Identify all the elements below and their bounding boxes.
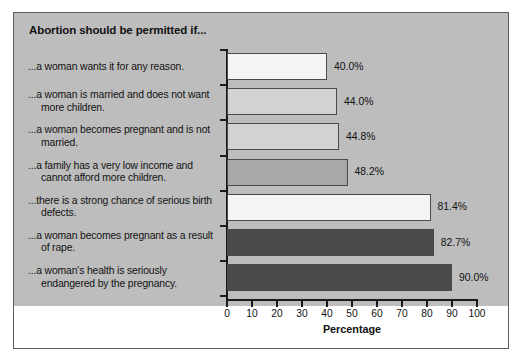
bar-value-label: 44.8% bbox=[346, 131, 375, 142]
bar bbox=[227, 53, 327, 80]
x-axis-tick-label: 100 bbox=[462, 308, 492, 319]
category-label: ...a woman's health is seriously endange… bbox=[28, 265, 214, 290]
chart-title: Abortion should be permitted if... bbox=[29, 24, 206, 36]
y-axis-tick bbox=[220, 49, 228, 51]
x-axis-tick bbox=[326, 301, 328, 307]
category-label: ...a woman becomes pregnant as a result … bbox=[28, 230, 214, 255]
bar-value-label: 82.7% bbox=[441, 237, 470, 248]
x-axis-tick bbox=[301, 301, 303, 307]
category-label: ...a woman is married and does not want … bbox=[28, 89, 214, 114]
x-axis-tick bbox=[476, 301, 478, 307]
y-axis-tick bbox=[220, 119, 228, 121]
bar-value-label: 40.0% bbox=[334, 61, 363, 72]
bar bbox=[227, 229, 434, 256]
y-axis-tick bbox=[220, 155, 228, 157]
chart-figure: Abortion should be permitted if... ...a … bbox=[13, 12, 509, 349]
bar-value-label: 90.0% bbox=[459, 272, 488, 283]
x-axis-tick bbox=[451, 301, 453, 307]
category-label: ...a woman becomes pregnant and is not m… bbox=[28, 124, 214, 149]
category-label-list: ...a woman wants it for any reason....a … bbox=[28, 49, 214, 301]
bar-value-label: 48.2% bbox=[355, 166, 384, 177]
x-axis-tick bbox=[276, 301, 278, 307]
x-axis-tick bbox=[226, 301, 228, 307]
plot-area: Percentage 40.0%44.0%44.8%48.2%81.4%82.7… bbox=[213, 49, 491, 306]
y-axis-tick bbox=[220, 225, 228, 227]
y-axis-tick bbox=[220, 260, 228, 262]
y-axis-tick bbox=[220, 190, 228, 192]
x-axis-tick bbox=[426, 301, 428, 307]
bar bbox=[227, 264, 452, 291]
bar bbox=[227, 88, 337, 115]
category-label: ...there is a strong chance of serious b… bbox=[28, 195, 214, 220]
x-axis-title: Percentage bbox=[226, 323, 478, 335]
bar-value-label: 44.0% bbox=[344, 96, 373, 107]
bar-value-label: 81.4% bbox=[438, 201, 467, 212]
x-axis-tick bbox=[251, 301, 253, 307]
x-axis-tick bbox=[351, 301, 353, 307]
y-axis-tick bbox=[220, 295, 228, 297]
x-axis-tick bbox=[401, 301, 403, 307]
x-axis-tick bbox=[376, 301, 378, 307]
category-label: ...a woman wants it for any reason. bbox=[28, 61, 214, 73]
bar bbox=[227, 194, 431, 221]
category-label: ...a family has a very low income and ca… bbox=[28, 160, 214, 185]
y-axis-tick bbox=[220, 84, 228, 86]
bar bbox=[227, 159, 348, 186]
bar bbox=[227, 123, 339, 150]
